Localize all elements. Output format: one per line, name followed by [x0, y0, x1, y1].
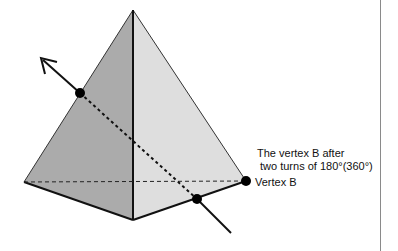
rotation-axis-upper — [43, 60, 80, 93]
after-rotation-label-line2: two turns of 180°(360°) — [260, 160, 373, 172]
pyramid-diagram: The vertex B after two turns of 180°(360… — [0, 0, 398, 251]
vertex-b-point — [241, 176, 251, 186]
rotation-axis-lower — [197, 199, 231, 233]
after-rotation-label-line1: The vertex B after — [257, 147, 344, 159]
axis-upper-point — [75, 88, 85, 98]
frame-divider — [380, 0, 381, 251]
pyramid-svg — [0, 0, 398, 251]
right-face — [133, 10, 246, 220]
vertex-b-label: Vertex B — [255, 176, 297, 188]
axis-lower-point — [192, 194, 202, 204]
